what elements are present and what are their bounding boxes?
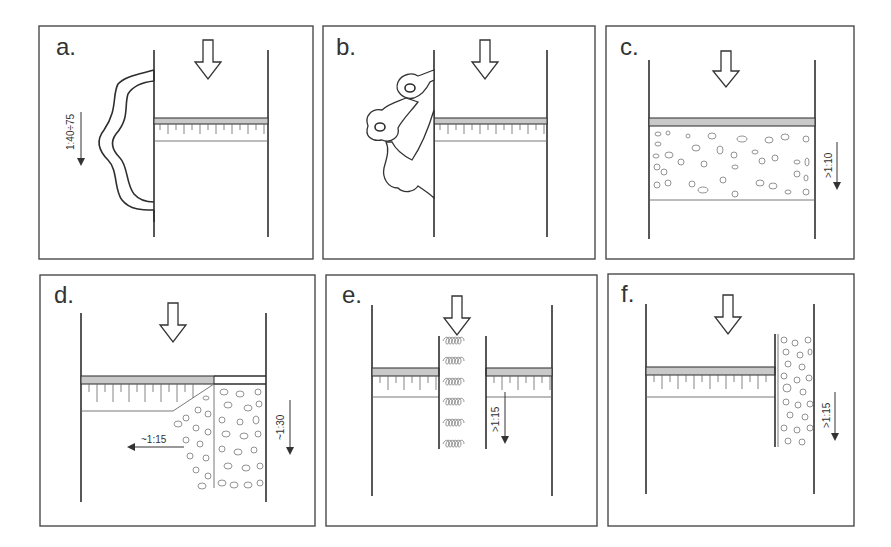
- panel-c-label: c.: [620, 33, 639, 60]
- slab: [646, 367, 775, 375]
- panel-e-label: e.: [342, 281, 362, 308]
- panel-a: a. 1:40÷75: [39, 26, 313, 259]
- ratio-label: >1:15: [821, 402, 832, 428]
- panel-d-label: d.: [54, 281, 74, 308]
- panel-f: f.: [608, 274, 854, 526]
- figure-canvas: a. 1:40÷75 b.: [0, 0, 891, 547]
- panel-a-frame: [39, 26, 313, 259]
- panel-f-label: f.: [621, 280, 634, 307]
- ratio-label: 1:40÷75: [65, 113, 76, 150]
- slab: [81, 376, 214, 384]
- slab: [434, 118, 547, 124]
- panel-a-label: a.: [56, 33, 76, 60]
- ratio-label-vertical: ~1:30: [275, 414, 286, 440]
- ratio-label: >1:15: [490, 406, 501, 432]
- panel-b-frame: [323, 26, 595, 259]
- panel-d: d.: [40, 275, 315, 526]
- slab-left: [372, 368, 439, 376]
- slab: [154, 118, 268, 124]
- ratio-label: >1:10: [823, 152, 834, 178]
- panel-b-label: b.: [336, 33, 356, 60]
- slab-right: [486, 368, 552, 376]
- slab: [649, 118, 815, 126]
- panel-c: c. >1:10: [606, 26, 854, 259]
- ratio-label-horizontal: ~1:15: [141, 434, 167, 445]
- panel-e: e. >1:15: [326, 275, 597, 526]
- panel-b: b.: [323, 26, 595, 259]
